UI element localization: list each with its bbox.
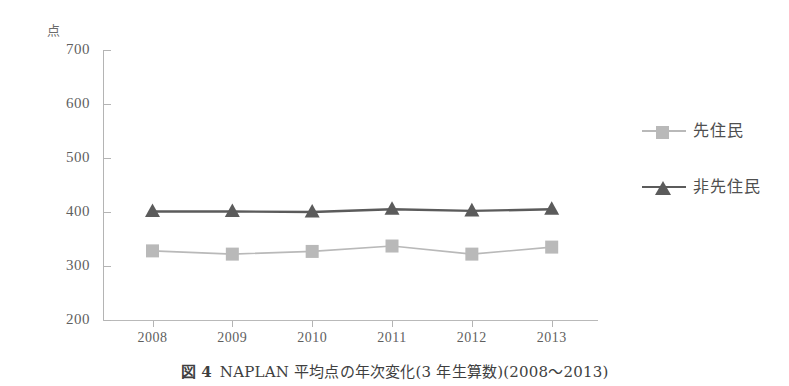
figure-naplan-average-scores: 点 200300400500600700 2008200920102011201… (0, 0, 789, 386)
series-line (153, 209, 552, 212)
triangle-marker-icon (642, 179, 686, 195)
data-point-triangle-2009 (225, 203, 240, 217)
figure-caption-text: NAPLAN 平均点の年次変化(3 年生算数)(2008～2013) (220, 363, 609, 381)
data-point-square-2008 (146, 244, 159, 257)
legend-label-non-indigenous: 非先住民 (693, 178, 761, 196)
data-point-square-2010 (306, 245, 319, 258)
square-marker-icon (642, 123, 686, 139)
figure-caption: 図 4NAPLAN 平均点の年次変化(3 年生算数)(2008～2013) (0, 362, 789, 382)
figure-number: 図 4 (181, 363, 212, 381)
data-point-square-2012 (465, 248, 478, 261)
legend-label-indigenous: 先住民 (693, 122, 744, 140)
data-point-triangle-2008 (145, 203, 160, 217)
data-point-square-2013 (545, 241, 558, 254)
data-point-square-2011 (386, 240, 399, 253)
series-line (153, 246, 552, 254)
legend-item-indigenous[interactable]: 先住民 (642, 122, 744, 140)
data-point-triangle-2013 (544, 201, 559, 215)
legend-item-non-indigenous[interactable]: 非先住民 (642, 178, 761, 196)
series-non-indigenous (145, 201, 559, 217)
series-indigenous (146, 240, 558, 261)
data-point-square-2009 (226, 248, 239, 261)
data-point-triangle-2011 (385, 201, 400, 215)
